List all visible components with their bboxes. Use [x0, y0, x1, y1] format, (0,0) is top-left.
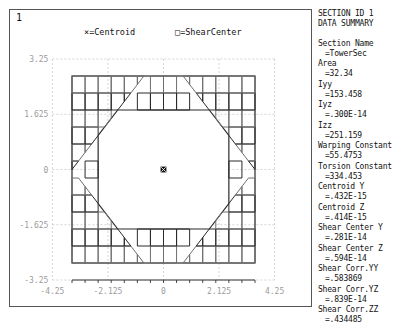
summary-entry-value: =32.34: [318, 69, 394, 79]
mesh-element: [190, 246, 203, 263]
summary-entries: Section Name=TowerSecArea=32.34Iyy=153.4…: [318, 39, 394, 326]
mesh-element: [124, 238, 131, 247]
mesh-element: [111, 229, 124, 246]
graphics-window: 1 ×=Centroid □=ShearCenter -3.25-1.62501…: [9, 9, 312, 307]
summary-entry: Shear Corr.YZ=.839E-14: [318, 285, 394, 306]
mesh-element: [216, 246, 229, 263]
summary-entry-value: =251.159: [318, 131, 394, 141]
summary-entry: Iyy=153.458: [318, 80, 394, 101]
mesh-element: [85, 110, 98, 127]
mesh-element: [242, 195, 255, 212]
center-markers: [161, 167, 166, 172]
mesh-element: [229, 93, 242, 110]
mesh-element: [242, 144, 255, 161]
summary-entry-value: =TowerSec: [318, 49, 394, 59]
mesh-element: [229, 76, 242, 93]
legend-shear-center-label: =ShearCenter: [180, 27, 241, 37]
mesh-element: [124, 246, 137, 263]
summary-entry-value: =55.4753: [318, 151, 394, 161]
mesh-element: [242, 229, 255, 246]
mesh-element: [98, 76, 111, 93]
mesh-element: [85, 195, 98, 212]
mesh-element: [85, 212, 98, 229]
summary-entry-value: =.414E-15: [318, 213, 394, 223]
y-tick-label: 1.625: [24, 110, 48, 119]
summary-entry-label: Shear Corr.YY: [318, 264, 394, 274]
summary-entry: Centroid Z=.414E-15: [318, 203, 394, 224]
mesh-element: [137, 93, 150, 110]
mesh-element: [150, 229, 163, 246]
mesh-element: [196, 238, 203, 247]
summary-entry-label: Iyz: [318, 100, 394, 110]
mesh-element: [72, 161, 79, 170]
mesh-element: [229, 229, 242, 246]
summary-entry-value: =.281E-14: [318, 233, 394, 243]
mesh-element: [164, 76, 177, 93]
mesh-element: [203, 229, 216, 246]
mesh-element: [85, 76, 98, 93]
mesh-element: [216, 229, 229, 246]
section-mesh-plot: -3.25-1.62501.6253.25-4.25-2.12502.1254.…: [10, 44, 313, 299]
mesh-element: [85, 127, 98, 144]
summary-entry-label: Torsion Constant: [318, 162, 394, 172]
summary-entry-value: =153.458: [318, 90, 394, 100]
summary-entry: Area=32.34: [318, 59, 394, 80]
mesh-element: [229, 195, 242, 212]
summary-entry: Shear Center Y=.281E-14: [318, 223, 394, 244]
mesh-element: [124, 93, 131, 102]
mesh-element: [111, 246, 124, 263]
mesh-element: [72, 212, 85, 229]
summary-entry-label: Section Name: [318, 39, 394, 49]
mesh-element: [216, 76, 229, 93]
mesh-element: [203, 76, 216, 93]
window-id-label: 1: [16, 12, 22, 23]
mesh-element: [85, 93, 98, 110]
mesh-element: [85, 161, 98, 178]
mesh-element: [177, 229, 190, 246]
mesh-element: [203, 246, 216, 263]
summary-entry: Centroid Y=.432E-15: [318, 182, 394, 203]
mesh-element: [203, 93, 216, 110]
summary-entry: Shear Center Z=.594E-14: [318, 244, 394, 265]
mesh-element: [196, 93, 203, 102]
mesh-element: [242, 212, 255, 229]
summary-entry: Iyz=.300E-14: [318, 100, 394, 121]
x-tick-label: 0: [161, 287, 166, 296]
mesh-element: [72, 178, 85, 195]
legend-centroid-label: =Centroid: [89, 27, 135, 37]
x-tick-label: 4.25: [265, 287, 284, 296]
axis-ticks: [72, 280, 255, 283]
mesh-element: [72, 229, 85, 246]
x-tick-label: -4.25: [40, 287, 64, 296]
mesh-element: [85, 187, 92, 196]
mesh-element: [85, 144, 92, 153]
summary-entry-value: =.594E-14: [318, 254, 394, 264]
summary-entry-label: Iyy: [318, 80, 394, 90]
summary-entry: Shear Corr.YY=.583869: [318, 264, 394, 285]
summary-entry-label: Warping Constant: [318, 141, 394, 151]
mesh-element: [242, 127, 255, 144]
mesh-element: [111, 93, 124, 110]
mesh-element: [137, 229, 150, 246]
mesh-element: [177, 93, 190, 110]
summary-title-line2: DATA SUMMARY: [318, 19, 394, 29]
mesh-element: [150, 246, 163, 263]
mesh-element: [183, 76, 190, 85]
mesh-element: [72, 195, 85, 212]
mesh-element: [190, 76, 203, 93]
mesh-element: [242, 178, 255, 195]
mesh-element: [85, 246, 98, 263]
legend-item-centroid: ×=Centroid: [84, 27, 135, 37]
mesh-element: [98, 246, 111, 263]
summary-entry-value: =.434485: [318, 315, 394, 325]
summary-entry-label: Shear Center Y: [318, 223, 394, 233]
mesh-element: [137, 255, 144, 264]
summary-entry-value: =.583869: [318, 274, 394, 284]
legend-item-shear-center: □=ShearCenter: [175, 27, 242, 37]
mesh-element: [242, 76, 255, 93]
mesh-element: [229, 212, 242, 229]
mesh-element: [150, 76, 163, 93]
summary-entry-label: Shear Center Z: [318, 244, 394, 254]
summary-entry-value: =.839E-14: [318, 295, 394, 305]
mesh-element: [183, 255, 190, 264]
